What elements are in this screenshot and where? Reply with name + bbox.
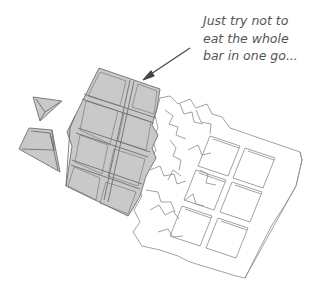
caption-text: Just try not to eat the whole bar in one… <box>203 12 313 65</box>
foil-wrapper-icon <box>133 96 302 278</box>
caption-line: Just try not to <box>203 12 313 30</box>
caption-line: eat the whole <box>203 30 313 48</box>
caption-line: bar in one go... <box>203 47 313 65</box>
chocolate-piece-icon <box>19 128 60 172</box>
chocolate-piece-icon <box>33 97 62 121</box>
arrow-icon <box>143 48 190 80</box>
